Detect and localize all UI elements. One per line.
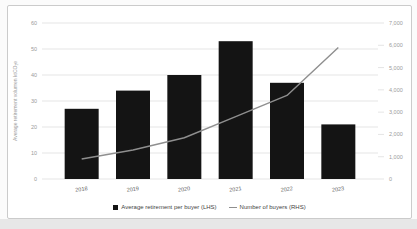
left-axis-tick-50: 50 [31, 46, 37, 52]
left-axis-tick-0: 0 [34, 176, 37, 182]
right-axis-tick-5000: 5,000 [389, 65, 403, 71]
bar-2019 [116, 91, 150, 179]
legend-item-bar: Average retirement per buyer (LHS) [113, 204, 216, 211]
x-axis-label-2019: 2019 [126, 185, 139, 193]
left-axis-tick-30: 30 [31, 98, 37, 104]
left-axis-title: Average retirement volumen ktCO₂e [12, 61, 18, 141]
bar-2022 [270, 83, 304, 179]
chart-legend: Average retirement per buyer (LHS) Numbe… [8, 204, 411, 211]
bar-2023 [321, 124, 355, 179]
bar-2021 [219, 41, 253, 179]
right-axis-tick-7000: 7,000 [389, 20, 403, 26]
x-axis-label-2023: 2023 [332, 185, 345, 193]
left-axis-tick-60: 60 [31, 20, 37, 26]
page-bottom-strip [0, 219, 417, 229]
x-axis-label-2021: 2021 [229, 185, 242, 193]
chart-plot: 010203040506001,0002,0003,0004,0005,0006… [8, 6, 411, 218]
x-axis-label-2018: 2018 [75, 185, 88, 193]
x-axis-label-2022: 2022 [280, 185, 293, 193]
left-axis-tick-10: 10 [31, 150, 37, 156]
right-axis-tick-3000: 3,000 [389, 109, 403, 115]
chart-card: 010203040506001,0002,0003,0004,0005,0006… [7, 5, 412, 219]
line-series-label: Number of buyers (RHS) [240, 204, 306, 211]
bar-2018 [65, 109, 99, 179]
left-axis-tick-40: 40 [31, 72, 37, 78]
x-axis-label-2020: 2020 [178, 185, 191, 193]
right-axis-tick-1000: 1,000 [389, 154, 403, 160]
bar-series-label: Average retirement per buyer (LHS) [121, 204, 216, 211]
legend-item-line: Number of buyers (RHS) [229, 204, 306, 211]
right-axis-tick-6000: 6,000 [389, 42, 403, 48]
bar-2020 [167, 75, 201, 179]
line-series-swatch-icon [229, 207, 237, 209]
right-axis-tick-0: 0 [389, 176, 392, 182]
right-axis-tick-4000: 4,000 [389, 87, 403, 93]
bar-series-swatch-icon [113, 205, 118, 210]
right-axis-tick-2000: 2,000 [389, 131, 403, 137]
left-axis-tick-20: 20 [31, 124, 37, 130]
